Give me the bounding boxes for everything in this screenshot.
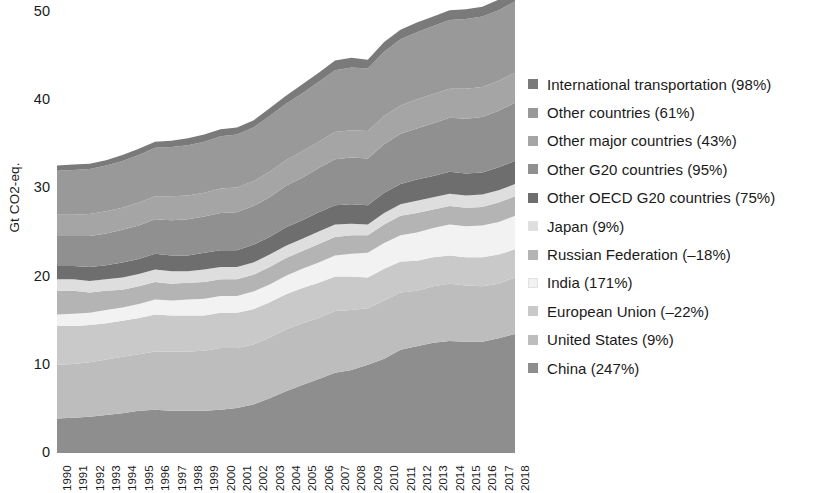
legend-item[interactable]: Other OECD G20 countries (75%) (528, 184, 810, 212)
legend-color-swatch-icon (528, 278, 538, 288)
y-axis-tick-label: 0 (6, 445, 50, 460)
y-axis-tick-label: 50 (6, 4, 50, 19)
chart-legend: International transportation (98%)Other … (528, 70, 810, 382)
x-axis-tick-label: 2008 (356, 465, 368, 491)
y-axis-title-text: Gt CO2-eq. (7, 148, 22, 248)
x-axis-tick-label: 2016 (487, 465, 499, 491)
legend-color-swatch-icon (528, 164, 538, 174)
legend-item-label: Japan (9%) (547, 218, 624, 235)
x-axis-tick-label: 2002 (258, 465, 270, 491)
legend-item-label: India (171%) (547, 274, 633, 291)
legend-item-label: China (247%) (547, 360, 639, 377)
x-axis-tick-label: 1999 (209, 465, 221, 491)
x-axis-tick-label: 1994 (127, 465, 139, 491)
legend-item[interactable]: China (247%) (528, 354, 810, 382)
legend-color-swatch-icon (528, 250, 538, 260)
x-axis-tick-label: 2000 (226, 465, 238, 491)
x-axis: 1990199119921993199419951996199719981999… (57, 455, 516, 493)
legend-item-label: Russian Federation (–18%) (547, 246, 731, 263)
legend-item[interactable]: India (171%) (528, 269, 810, 297)
stacked-area-svg (57, 0, 516, 455)
legend-color-swatch-icon (528, 306, 538, 316)
x-axis-tick-label: 2007 (340, 465, 352, 491)
x-axis-tick-label: 2003 (275, 465, 287, 491)
x-axis-tick-label: 2010 (389, 465, 401, 491)
x-axis-tick-label: 1991 (78, 465, 90, 491)
x-axis-tick-label: 2005 (307, 465, 319, 491)
legend-color-swatch-icon (528, 335, 538, 345)
legend-item-label: Other major countries (43%) (547, 132, 737, 149)
x-axis-tick-label: 1992 (95, 465, 107, 491)
legend-item[interactable]: United States (9%) (528, 326, 810, 354)
legend-color-swatch-icon (528, 79, 538, 89)
x-axis-tick-label: 2004 (291, 465, 303, 491)
legend-item-label: United States (9%) (547, 331, 674, 348)
x-axis-tick-label: 1996 (160, 465, 172, 491)
x-axis-tick-label: 2001 (242, 465, 254, 491)
x-axis-tick-label: 1995 (144, 465, 156, 491)
legend-item[interactable]: Russian Federation (–18%) (528, 240, 810, 268)
legend-item[interactable]: Other countries (61%) (528, 98, 810, 126)
legend-item[interactable]: Other G20 countries (95%) (528, 155, 810, 183)
plot-area (57, 0, 516, 455)
x-axis-tick-label: 2014 (455, 465, 467, 491)
legend-color-swatch-icon (528, 221, 538, 231)
legend-color-swatch-icon (528, 136, 538, 146)
x-axis-tick-label: 1998 (193, 465, 205, 491)
x-axis-tick-label: 2009 (373, 465, 385, 491)
legend-item[interactable]: Japan (9%) (528, 212, 810, 240)
x-axis-tick-label: 1997 (177, 465, 189, 491)
x-axis-tick-label: 2006 (324, 465, 336, 491)
y-axis-tick-label: 20 (6, 269, 50, 284)
chart-page: 01020304050 Gt CO2-eq. 19901991199219931… (0, 0, 814, 493)
legend-item-label: European Union (–22%) (547, 303, 709, 320)
legend-color-swatch-icon (528, 193, 538, 203)
legend-item-label: Other countries (61%) (547, 104, 695, 121)
y-axis-tick-label: 10 (6, 357, 50, 372)
x-axis-tick-label: 2015 (471, 465, 483, 491)
legend-color-swatch-icon (528, 363, 538, 373)
legend-item[interactable]: Other major countries (43%) (528, 127, 810, 155)
legend-item-label: Other OECD G20 countries (75%) (547, 189, 775, 206)
x-axis-tick-label: 2018 (520, 465, 532, 491)
x-axis-tick-label: 2012 (422, 465, 434, 491)
y-axis-title: Gt CO2-eq. (2, 150, 26, 205)
x-axis-tick-label: 2013 (438, 465, 450, 491)
y-axis-tick-label: 40 (6, 92, 50, 107)
legend-item-label: International transportation (98%) (547, 76, 771, 93)
legend-color-swatch-icon (528, 108, 538, 118)
x-axis-tick-label: 2011 (406, 466, 418, 491)
legend-item[interactable]: International transportation (98%) (528, 70, 810, 98)
legend-item[interactable]: European Union (–22%) (528, 297, 810, 325)
x-axis-tick-label: 1993 (111, 465, 123, 491)
x-axis-tick-label: 2017 (504, 465, 516, 491)
x-axis-tick-label: 1990 (62, 465, 74, 491)
legend-item-label: Other G20 countries (95%) (547, 161, 728, 178)
